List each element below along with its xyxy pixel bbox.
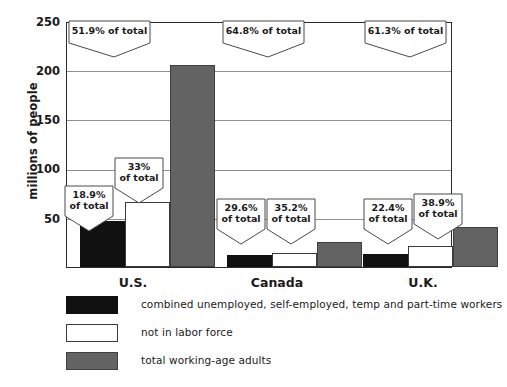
- legend-item-combined-workers: combined unemployed, self-employed, temp…: [40, 296, 470, 324]
- callout-canada-black-line1: 29.6%: [225, 202, 258, 213]
- y-tick-250: 250: [0, 15, 60, 29]
- callout-us-black-line2: of total: [69, 200, 108, 211]
- bar-us-not-in-labor-force: [125, 202, 170, 267]
- callout-uk-black-text: 22.4%of total: [363, 198, 413, 224]
- x-tick-us: U.S.: [78, 275, 188, 290]
- callout-uk-white-line2: of total: [418, 208, 457, 219]
- x-tick-uk: U.K.: [368, 275, 478, 290]
- callout-us-black-line1: 18.9%: [73, 189, 106, 200]
- callout-uk-gray-text: 61.3% of total: [364, 20, 447, 36]
- callout-canada-white-line1: 35.2%: [275, 202, 308, 213]
- bar-uk-combined-workers: [363, 254, 408, 267]
- callout-canada-black-line2: of total: [221, 213, 260, 224]
- callout-uk-combined-workers: 22.4%of total: [363, 198, 413, 245]
- callout-us-white-line2: of total: [119, 172, 158, 183]
- callout-us-white-text: 33%of total: [114, 157, 164, 183]
- legend-label-total-working-age: total working-age adults: [141, 354, 271, 366]
- callout-canada-combined-workers: 29.6%of total: [216, 198, 266, 245]
- legend-label-combined-workers: combined unemployed, self-employed, temp…: [141, 298, 502, 310]
- callout-us-total-working-age: 51.9% of total: [68, 20, 151, 58]
- callout-uk-white-line1: 38.9%: [422, 197, 455, 208]
- callout-uk-not-in-labor-force: 38.9%of total: [413, 193, 463, 240]
- bar-canada-not-in-labor-force: [272, 253, 317, 267]
- callout-us-not-in-labor-force: 33%of total: [114, 157, 164, 204]
- bar-uk-not-in-labor-force: [408, 246, 453, 267]
- chart-legend: combined unemployed, self-employed, temp…: [40, 296, 470, 380]
- y-tick-100: 100: [0, 162, 60, 176]
- y-tick-50: 50: [0, 212, 60, 226]
- x-tick-canada: Canada: [222, 275, 332, 290]
- callout-canada-white-text: 35.2%of total: [266, 198, 316, 224]
- legend-swatch-gray: [66, 352, 118, 370]
- callout-uk-white-text: 38.9%of total: [413, 193, 463, 219]
- callout-canada-total-working-age: 64.8% of total: [222, 20, 305, 58]
- callout-canada-gray-text: 64.8% of total: [222, 20, 305, 36]
- bar-us-total-working-age: [170, 65, 215, 267]
- legend-label-not-in-labor-force: not in labor force: [141, 326, 233, 338]
- legend-swatch-black: [66, 296, 118, 314]
- callout-us-black-text: 18.9%of total: [64, 185, 114, 211]
- callout-uk-black-line1: 22.4%: [372, 202, 405, 213]
- callout-canada-not-in-labor-force: 35.2%of total: [266, 198, 316, 245]
- legend-swatch-white: [66, 324, 118, 342]
- bar-canada-combined-workers: [227, 255, 272, 267]
- legend-item-not-in-labor-force: not in labor force: [40, 324, 470, 352]
- callout-us-white-line1: 33%: [128, 161, 151, 172]
- gridline-200: [67, 71, 451, 72]
- legend-item-total-working-age: total working-age adults: [40, 352, 470, 380]
- callout-canada-white-line2: of total: [271, 213, 310, 224]
- y-tick-150: 150: [0, 113, 60, 127]
- bar-canada-total-working-age: [317, 242, 362, 267]
- bar-chart: millions of people 250 200 150 100 50 U.…: [0, 0, 507, 387]
- callout-uk-total-working-age: 61.3% of total: [364, 20, 447, 58]
- gridline-150: [67, 120, 451, 121]
- callout-canada-black-text: 29.6%of total: [216, 198, 266, 224]
- y-tick-200: 200: [0, 64, 60, 78]
- callout-uk-black-line2: of total: [368, 213, 407, 224]
- callout-us-gray-text: 51.9% of total: [68, 20, 151, 36]
- callout-us-combined-workers: 18.9%of total: [64, 185, 114, 232]
